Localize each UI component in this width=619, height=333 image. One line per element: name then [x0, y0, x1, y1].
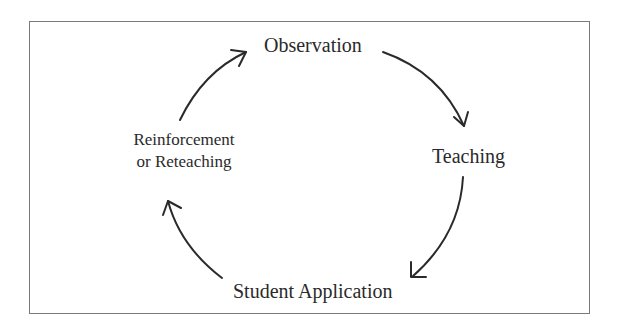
arrow-reinforcement-to-observation-icon — [180, 50, 246, 120]
node-student-application: Student Application — [233, 281, 392, 301]
node-reinforcement-line1: Reinforcement — [118, 129, 250, 151]
node-observation: Observation — [264, 35, 362, 55]
arrow-teaching-to-student-icon — [411, 177, 463, 277]
node-reinforcement-line2: or Reteaching — [118, 151, 250, 173]
node-teaching: Teaching — [432, 146, 505, 166]
node-reinforcement: Reinforcement or Reteaching — [118, 129, 250, 173]
arrow-student-to-reinforcement-icon — [163, 201, 222, 278]
arrow-observation-to-teaching-icon — [383, 52, 468, 126]
